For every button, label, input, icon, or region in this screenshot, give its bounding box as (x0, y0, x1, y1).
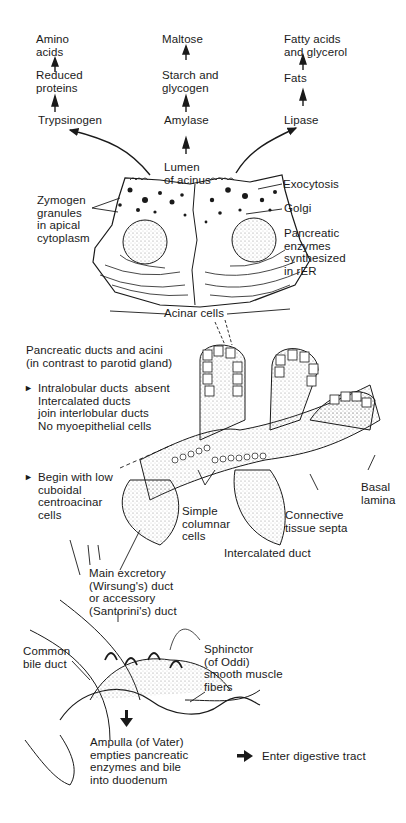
common-bile-duct-label: Common bile duct (23, 645, 70, 670)
basal-lamina-label: Basal lamina (361, 481, 395, 506)
up-arrow-icons (52, 46, 306, 154)
protein-product-label: Amino acids (36, 33, 69, 58)
trypsinogen-label: Trypsinogen (38, 114, 102, 127)
main-duct-label: Main excretory (Wirsung's) duct or acces… (89, 567, 177, 617)
protein-intermediate-label: Reduced proteins (36, 69, 83, 94)
connective-tissue-label: Connective tissue septa (285, 509, 348, 534)
legend-arrow-icon (237, 750, 253, 762)
intercalated-duct-label: Intercalated duct (224, 547, 311, 560)
simple-columnar-label: Simple columnar cells (182, 505, 230, 543)
ducts-title-label: Pancreatic ducts and acini (in contrast … (26, 344, 172, 369)
ampulla-down-arrow-icon (120, 710, 133, 727)
ampulla-label: Ampulla (of Vater) empties pancreatic en… (90, 736, 188, 786)
carb-intermediate-label: Starch and glycogen (162, 69, 219, 94)
sphincter-label: Sphinctor (of Oddi) smooth muscle fibers (204, 643, 283, 693)
acinar-cells-drawing (93, 175, 310, 307)
bullet-icon-2: ► (24, 471, 33, 484)
golgi-label: Golgi (284, 202, 311, 215)
rer-label: Pancreatic enzymes synthesized in rER (284, 227, 346, 277)
ducts-point-2: Begin with low cuboidal centroacinar cel… (38, 471, 113, 521)
curve-to-trypsinogen (70, 130, 150, 175)
zymogen-granules-label: Zymogen granules in apical cytoplasm (37, 194, 90, 244)
acinar-cells-label: Acinar cells (164, 307, 224, 320)
lipase-label: Lipase (284, 114, 319, 127)
ducts-point-1: Intralobular ducts absent Intercalated d… (38, 382, 170, 432)
curve-to-lipase (236, 128, 296, 173)
exocytosis-label: Exocytosis (283, 178, 339, 191)
bullet-icon-1: ► (24, 382, 33, 395)
fats-label: Fats (284, 72, 307, 85)
amylase-label: Amylase (164, 114, 209, 127)
lipid-product-label: Fatty acids and glycerol (284, 33, 347, 58)
carb-product-label: Maltose (162, 33, 203, 46)
lumen-label: Lumen of acinus (164, 161, 211, 186)
legend-label: Enter digestive tract (262, 750, 366, 763)
